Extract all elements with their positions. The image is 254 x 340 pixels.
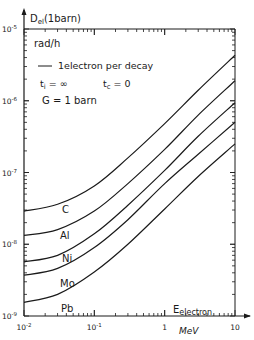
curves <box>24 55 235 302</box>
y-tick-label: 10-7 <box>2 168 18 178</box>
curve-label-pb: Pb <box>61 303 73 314</box>
curve-label-c: C <box>62 204 69 215</box>
y-axis-arrow-icon <box>22 8 27 15</box>
y-tick-label: 10-5 <box>2 24 18 34</box>
x-axis-arrow-icon <box>244 314 251 319</box>
x-axis-unit: MeV <box>179 326 199 336</box>
y-tick-label: 10-8 <box>2 239 18 249</box>
x-tick-label: 10-1 <box>87 322 102 332</box>
curve-label-mo: Mo <box>60 278 75 289</box>
curve-pb <box>24 144 235 302</box>
dose-rate-chart: 10-510-610-710-810-910-210-1110 CAlNiMoP… <box>0 0 254 340</box>
curve-labels: CAlNiMoPb <box>60 204 75 314</box>
y-axis-unit: rad/h <box>34 38 60 49</box>
ti-annotation: ti = ∞ <box>40 78 68 91</box>
curve-mo <box>24 122 235 275</box>
x-tick-label: 10 <box>230 323 240 332</box>
y-axis-title: Del(1barn) <box>30 13 81 26</box>
tc-annotation: tc = 0 <box>103 78 131 91</box>
legend-text: 1electron per decay <box>58 60 154 71</box>
sigma-annotation: G = 1 barn <box>42 95 97 106</box>
axes <box>22 8 252 319</box>
y-tick-label: 10-6 <box>2 96 18 106</box>
y-tick-label: 10-9 <box>2 311 18 321</box>
x-tick-label: 1 <box>162 323 167 332</box>
curve-label-al: Al <box>60 230 70 241</box>
x-tick-label: 10-2 <box>16 322 31 332</box>
curve-label-ni: Ni <box>62 253 72 264</box>
x-axis-title: Eelectron <box>173 304 212 317</box>
